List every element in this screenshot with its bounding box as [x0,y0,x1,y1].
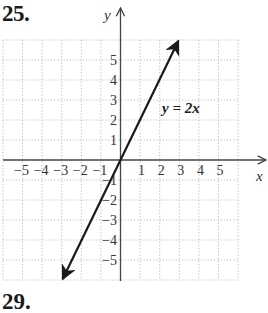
y-tick-label: 2 [110,113,117,128]
y-axis-label: y [102,7,111,23]
y-tick-label: −4 [102,233,117,248]
x-tick-label: −5 [14,163,29,178]
y-tick-label: 3 [110,93,117,108]
y-tick-label: −5 [102,253,117,268]
x-tick-label: 3 [177,163,184,178]
x-tick-label: 1 [138,163,145,178]
equation-label: y = 2x [160,100,200,116]
y-tick-label: 5 [110,53,117,68]
y-tick-label: 4 [110,73,117,88]
x-tick-label: 5 [217,163,224,178]
y-tick-label: 1 [110,133,117,148]
x-tick-label: −3 [53,163,68,178]
y-tick-label: −3 [102,213,117,228]
x-tick-label: −2 [73,163,88,178]
x-axis-label: x [255,168,263,184]
next-problem-number: 29. [2,289,31,313]
x-tick-label: 4 [197,163,204,178]
x-tick-label: 2 [158,163,165,178]
x-tick-label: −4 [34,163,49,178]
